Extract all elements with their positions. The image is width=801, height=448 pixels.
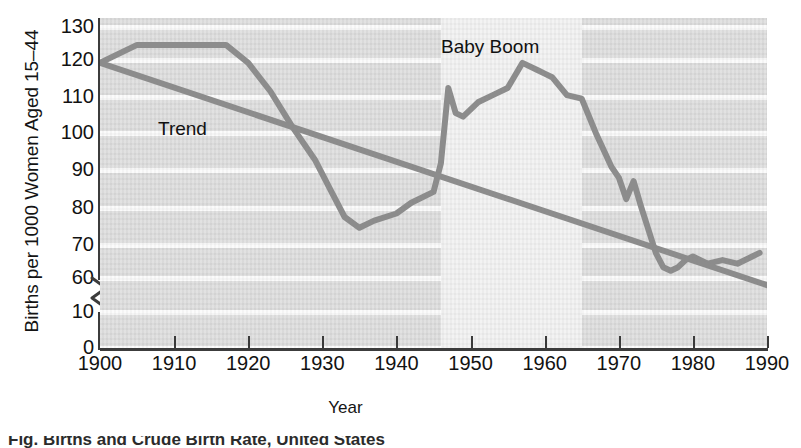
x-tick-1980: 1980 bbox=[661, 352, 725, 374]
plot-area: Trend Baby Boom bbox=[100, 18, 767, 348]
y-axis-title: Births per 1000 Women Aged 15–44 bbox=[21, 11, 43, 351]
x-axis-line bbox=[100, 348, 768, 351]
births-rate-line bbox=[100, 45, 760, 271]
figure-caption-text: Fig. Births and Crude Birth Rate, United… bbox=[8, 436, 385, 448]
x-tick-1920: 1920 bbox=[216, 352, 280, 374]
x-tickmark-1950 bbox=[471, 336, 473, 348]
x-tickmark-1920 bbox=[248, 336, 250, 348]
x-tick-1910: 1910 bbox=[142, 352, 206, 374]
y-tick-130: 130 bbox=[48, 16, 94, 36]
x-tickmark-1910 bbox=[174, 336, 176, 348]
x-tickmark-1940 bbox=[396, 336, 398, 348]
trend-annotation: Trend bbox=[158, 118, 207, 140]
x-tick-1950: 1950 bbox=[439, 352, 503, 374]
baby-boom-annotation: Baby Boom bbox=[441, 36, 539, 58]
x-tick-1940: 1940 bbox=[364, 352, 428, 374]
y-axis-tick-labels: 13012011010090807060100 bbox=[44, 0, 94, 370]
y-tick-120: 120 bbox=[48, 49, 94, 69]
y-tick-90: 90 bbox=[48, 159, 94, 179]
y-tick-110: 110 bbox=[48, 86, 94, 106]
x-tickmark-1930 bbox=[322, 336, 324, 348]
series-lines bbox=[100, 18, 767, 348]
figure: Births per 1000 Women Aged 15–44 1301201… bbox=[0, 0, 801, 448]
y-tick-100: 100 bbox=[48, 122, 94, 142]
x-tickmark-1980 bbox=[693, 336, 695, 348]
x-tickmark-1990 bbox=[767, 336, 769, 348]
trend-line bbox=[100, 63, 767, 285]
x-tick-1960: 1960 bbox=[513, 352, 577, 374]
x-tick-1970: 1970 bbox=[587, 352, 651, 374]
y-tick-80: 80 bbox=[48, 197, 94, 217]
y-tick-70: 70 bbox=[48, 234, 94, 254]
figure-caption: Fig. Births and Crude Birth Rate, United… bbox=[8, 436, 508, 448]
x-tick-1930: 1930 bbox=[290, 352, 354, 374]
x-tickmark-1970 bbox=[619, 336, 621, 348]
x-tick-1990: 1990 bbox=[735, 352, 799, 374]
x-tick-1900: 1900 bbox=[68, 352, 132, 374]
x-tickmark-1960 bbox=[545, 336, 547, 348]
x-axis-title-text: Year bbox=[328, 398, 362, 417]
x-axis-title: Year bbox=[0, 398, 801, 418]
